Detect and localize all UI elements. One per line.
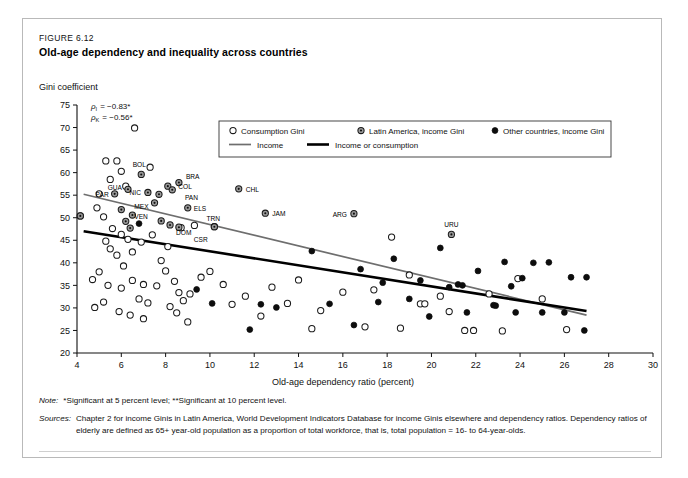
false (160, 220, 162, 222)
data-point (546, 259, 552, 265)
data-point (295, 277, 301, 283)
false (353, 213, 355, 215)
data-point (362, 324, 368, 330)
data-point (460, 282, 466, 288)
y-tick-label: 45 (60, 235, 70, 245)
country-label: ELS (194, 205, 207, 212)
data-point (129, 249, 135, 255)
data-point (109, 225, 115, 231)
country-label: PAN (185, 194, 198, 201)
data-point (198, 274, 204, 280)
false (169, 224, 171, 226)
data-point (120, 263, 126, 269)
data-point (508, 283, 514, 289)
data-point (426, 314, 432, 320)
false (120, 209, 122, 211)
data-point (136, 296, 142, 302)
y-tick-label: 60 (60, 168, 70, 178)
legend-label: Income (257, 141, 284, 150)
data-point (107, 176, 113, 182)
data-point (140, 316, 146, 322)
false (264, 212, 266, 214)
data-point (391, 256, 397, 262)
data-point (107, 246, 113, 252)
data-point (220, 281, 226, 287)
country-label: CSR (194, 236, 208, 243)
data-point (406, 272, 412, 278)
y-tick-label: 20 (60, 348, 70, 358)
data-point (100, 214, 106, 220)
data-point (118, 231, 124, 237)
x-tick-label: 14 (294, 360, 304, 370)
x-tick-label: 18 (382, 360, 392, 370)
y-tick-label: 30 (60, 303, 70, 313)
data-point (94, 205, 100, 211)
x-tick-label: 6 (119, 360, 124, 370)
data-point (318, 308, 324, 314)
data-point (138, 239, 144, 245)
data-point (129, 277, 135, 283)
figure-notes: Note: *Significant at 5 percent level; *… (39, 395, 651, 443)
data-point (118, 168, 124, 174)
data-point (568, 274, 574, 280)
data-point (470, 327, 476, 333)
legend-label: Income or consumption (335, 141, 418, 150)
data-point (539, 296, 545, 302)
data-point (176, 289, 182, 295)
data-point (163, 268, 169, 274)
data-point (258, 313, 264, 319)
legend-label: Latin America, income Gini (369, 127, 464, 136)
data-point (530, 260, 536, 266)
data-point (437, 293, 443, 299)
false (79, 215, 81, 217)
false (140, 173, 142, 175)
data-point (116, 308, 122, 314)
legend-marker-open-circle-icon (230, 127, 236, 133)
country-label: VEN (134, 213, 148, 220)
data-point (89, 276, 95, 282)
x-tick-label: 4 (74, 360, 79, 370)
country-label: JAM (272, 210, 285, 217)
y-axis-title: Gini coefficient (39, 82, 98, 92)
y-tick-label: 55 (60, 190, 70, 200)
country-label: BRA (186, 173, 200, 180)
data-point (493, 303, 499, 309)
scatter-plot: 2025303540455055606570754681012141618202… (23, 95, 663, 377)
data-point (462, 327, 468, 333)
false (178, 226, 180, 228)
data-point (269, 284, 275, 290)
data-point (145, 300, 151, 306)
false (187, 207, 189, 209)
x-tick-label: 12 (249, 360, 259, 370)
data-point (194, 287, 200, 293)
false (360, 129, 362, 131)
data-point (125, 236, 131, 242)
false (171, 189, 173, 191)
data-point (475, 268, 481, 274)
sources-label: Sources: (39, 413, 76, 436)
x-tick-label: 8 (163, 360, 168, 370)
bottom-divider (39, 451, 651, 452)
data-point (358, 266, 364, 272)
false (167, 185, 169, 187)
country-label: CHL (246, 186, 260, 193)
y-tick-label: 65 (60, 145, 70, 155)
country-label: BOL (133, 161, 147, 168)
data-point (486, 291, 492, 297)
data-point (380, 280, 386, 286)
data-point (147, 164, 153, 170)
data-point (464, 310, 470, 316)
country-label: MEX (134, 203, 149, 210)
data-point (564, 326, 570, 332)
legend-label: Other countries, income Gini (503, 127, 605, 136)
data-point (207, 268, 213, 274)
data-point (114, 158, 120, 164)
country-label: TRN (207, 215, 221, 222)
note-row: Note: *Significant at 5 percent level; *… (39, 395, 651, 406)
y-tick-label: 25 (60, 326, 70, 336)
country-label: DOM (176, 229, 191, 236)
false (125, 220, 127, 222)
false (114, 193, 116, 195)
data-point (92, 304, 98, 310)
data-point (140, 281, 146, 287)
